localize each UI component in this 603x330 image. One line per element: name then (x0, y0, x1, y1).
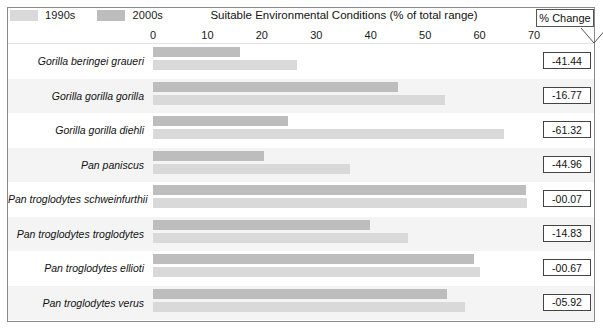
species-label: Pan paniscus (8, 159, 144, 171)
species-label: Pan troglodytes troglodytes (8, 228, 144, 240)
species-label: Gorilla gorilla diehli (8, 124, 144, 136)
pct-change-value: -05.92 (543, 294, 591, 311)
legend-label-1990s: 1990s (45, 9, 75, 21)
pct-change-value: -16.77 (543, 87, 591, 104)
bar-group (153, 220, 408, 243)
x-axis-tick: 50 (419, 29, 431, 41)
bar-1990s (153, 95, 445, 105)
bar-group (153, 289, 465, 312)
species-label: Pan troglodytes ellioti (8, 262, 144, 274)
bar-2000s (153, 289, 447, 299)
x-axis-tick: 70 (528, 29, 540, 41)
pct-change-header: % Change (536, 9, 594, 27)
pct-change-value: -41.44 (543, 52, 591, 69)
bar-group (153, 116, 504, 139)
bar-1990s (153, 198, 527, 208)
legend: 1990s 2000s (10, 9, 163, 21)
bar-2000s (153, 185, 526, 195)
chart-row: Gorilla gorilla gorilla-16.77 (8, 79, 594, 114)
plot-area: Gorilla beringei graueri-41.44Gorilla go… (8, 44, 594, 320)
bar-1990s (153, 129, 504, 139)
legend-swatch-1990s (10, 10, 38, 21)
chart-row: Pan troglodytes schweinfurthii-00.07 (8, 182, 594, 217)
bar-group (153, 47, 297, 70)
legend-swatch-2000s (97, 10, 125, 21)
pct-change-value: -14.83 (543, 225, 591, 242)
chart-row: Pan troglodytes troglodytes-14.83 (8, 217, 594, 252)
x-axis-tick: 60 (473, 29, 485, 41)
bar-2000s (153, 82, 398, 92)
bar-1990s (153, 267, 480, 277)
chart-row: Pan troglodytes ellioti-00.67 (8, 251, 594, 286)
x-axis-tick: 30 (310, 29, 322, 41)
legend-item-1990s: 1990s (10, 9, 75, 21)
bar-group (153, 82, 445, 105)
chart-title: Suitable Environmental Conditions (% of … (150, 9, 538, 21)
x-axis-tick: 0 (150, 29, 156, 41)
bar-group (153, 185, 527, 208)
bar-1990s (153, 302, 465, 312)
pct-change-value: -00.07 (543, 190, 591, 207)
bar-2000s (153, 254, 474, 264)
bar-1990s (153, 164, 350, 174)
x-axis-tick: 40 (365, 29, 377, 41)
bar-group (153, 254, 480, 277)
pct-change-value: -61.32 (543, 121, 591, 138)
bar-1990s (153, 60, 297, 70)
bar-group (153, 151, 350, 174)
chart-screenshot: 1990s 2000s Suitable Environmental Condi… (0, 0, 603, 330)
bar-2000s (153, 151, 264, 161)
chart-row: Gorilla beringei graueri-41.44 (8, 44, 594, 79)
bar-1990s (153, 233, 408, 243)
species-label: Gorilla gorilla gorilla (8, 90, 144, 102)
x-axis: 010203040506070 (0, 29, 603, 43)
pct-change-value: -44.96 (543, 156, 591, 173)
x-axis-tick: 20 (256, 29, 268, 41)
pct-change-value: -00.67 (543, 259, 591, 276)
species-label: Gorilla beringei graueri (8, 55, 144, 67)
bar-2000s (153, 220, 370, 230)
chart-row: Gorilla gorilla diehli-61.32 (8, 113, 594, 148)
bar-2000s (153, 47, 240, 57)
species-label: Pan troglodytes schweinfurthii (8, 193, 144, 205)
x-axis-tick: 10 (201, 29, 213, 41)
chart-row: Pan paniscus-44.96 (8, 148, 594, 183)
species-label: Pan troglodytes verus (8, 297, 144, 309)
chart-row: Pan troglodytes verus-05.92 (8, 286, 594, 321)
bar-2000s (153, 116, 288, 126)
